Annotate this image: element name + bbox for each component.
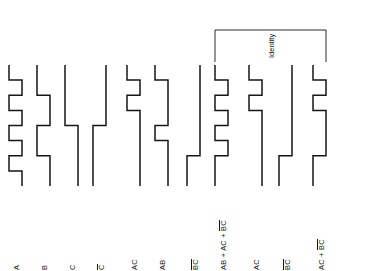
waveform-trace-BbarCbar2 [279,65,292,186]
waveform-label-c-bar-overbar-term: C [97,264,106,270]
waveform-label-sum-ab-ac-bc: AB + AC + BC [219,220,228,270]
waveform-label-ac: AC [131,259,139,270]
waveform-label-sum-ac-bc-text: AC + [317,250,326,270]
waveform-label-sum-ab-ac-bc-text: AB + AC + [219,231,228,270]
timing-diagram-figure: ABCCACABBCAB + AC + BCACBCAC + BC Identi… [0,0,375,271]
waveform-label-ab: AB [159,260,167,270]
waveform-trace-A [9,65,22,186]
waveform-trace-C [65,65,78,186]
waveform-label-sum-ab-ac-bc-overbar-term: BC [219,220,228,231]
waveform-label-a-text: A [12,265,21,270]
waveform-label-ab-text: AB [158,260,167,270]
waveform-label-c: C [69,264,77,270]
waveform-label-a: A [13,265,21,270]
waveform-label-bbar-cbar-overbar-term: BC [191,259,200,270]
waveform-label-c-bar: C [97,264,106,270]
waveform-trace-B [37,65,50,186]
waveform-label-bbar-cbar-2-overbar-term: BC [283,259,292,270]
waveform-canvas [0,0,375,271]
waveform-trace-AC [127,65,140,186]
waveform-trace-AC+BbarCbar [313,65,326,186]
waveform-label-ac-2: AC [253,259,261,270]
waveform-label-bbar-cbar: BC [191,259,200,270]
waveform-trace-BbarCbar [187,65,200,186]
waveform-trace-AB+AC+BbarCbar [215,65,228,186]
waveform-label-b: B [41,265,49,270]
waveform-trace-AC2 [249,65,262,186]
waveform-label-ac-text: AC [130,259,139,270]
waveform-trace-Cbar [93,65,106,186]
waveform-label-bbar-cbar-2: BC [283,259,292,270]
identity-bracket-label: Identity [268,34,276,58]
waveform-label-c-text: C [68,264,77,270]
waveform-label-b-text: B [40,265,49,270]
waveform-label-sum-ac-bc-overbar-term: BC [317,239,326,250]
waveform-label-sum-ac-bc: AC + BC [317,239,326,270]
waveform-trace-AB [155,65,168,186]
waveform-label-ac-2-text: AC [252,259,261,270]
